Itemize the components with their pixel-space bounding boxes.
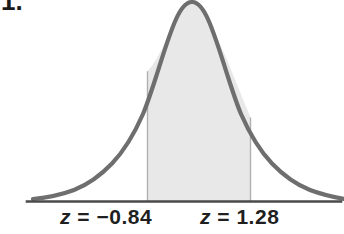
distribution-chart	[0, 0, 344, 234]
normal-distribution-figure: 1. z = −0.84 z = 1.28	[0, 0, 344, 234]
axis-label-left: z = −0.84	[60, 206, 152, 227]
z-variable: z	[200, 205, 211, 228]
z-variable: z	[60, 205, 71, 228]
axis-label-right: z = 1.28	[200, 206, 279, 227]
